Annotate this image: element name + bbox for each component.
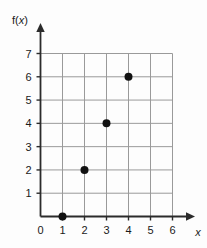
x-axis-tick-label: 2 bbox=[81, 224, 87, 236]
x-axis-arrowhead bbox=[186, 212, 195, 220]
y-axis-tick-label: 3 bbox=[25, 141, 31, 153]
axes bbox=[36, 23, 195, 221]
y-axis-tick-label: 6 bbox=[25, 71, 31, 83]
data-point bbox=[103, 119, 111, 127]
x-axis-tick-label: 1 bbox=[59, 224, 65, 236]
chart-figure: 0123456 1234567 f(x) x bbox=[0, 0, 207, 248]
y-axis-tick-label: 2 bbox=[25, 164, 31, 176]
x-axis-tick-label: 6 bbox=[169, 224, 175, 236]
grid-lines-vertical bbox=[63, 54, 173, 217]
y-axis-tick-label: 7 bbox=[25, 48, 31, 60]
x-axis-tick-labels: 0123456 bbox=[37, 224, 175, 236]
y-axis-tick-label: 4 bbox=[25, 117, 31, 129]
y-axis-tick-label: 1 bbox=[25, 187, 31, 199]
x-axis-tick-label: 5 bbox=[147, 224, 153, 236]
x-axis-tick-label: 4 bbox=[125, 224, 131, 236]
x-axis-tick-label: 0 bbox=[37, 224, 43, 236]
data-point bbox=[125, 73, 133, 81]
x-axis-label: x bbox=[194, 226, 201, 238]
y-axis-tick-label: 5 bbox=[25, 94, 31, 106]
data-point bbox=[81, 166, 89, 174]
data-point bbox=[59, 213, 67, 221]
y-axis-label: f(x) bbox=[12, 14, 28, 26]
scatter-plot-svg: 0123456 1234567 f(x) x bbox=[0, 0, 207, 248]
x-axis-tick-label: 3 bbox=[103, 224, 109, 236]
y-axis-arrowhead bbox=[36, 23, 44, 32]
y-axis-tick-labels: 1234567 bbox=[25, 48, 31, 200]
